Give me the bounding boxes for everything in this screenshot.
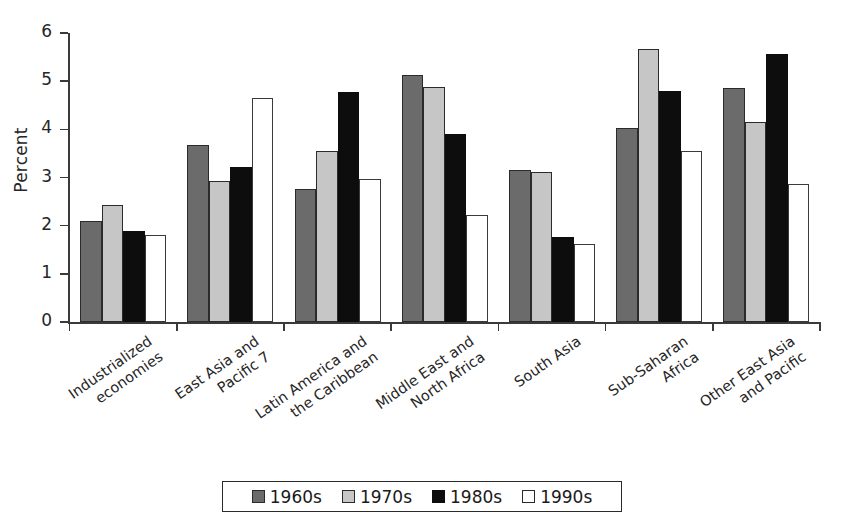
bar-1980s-group-0 — [123, 231, 145, 322]
legend-item-1990s[interactable]: 1990s — [522, 487, 592, 507]
y-axis-line — [68, 33, 70, 323]
chart-legend: 1960s1970s1980s1990s — [222, 481, 622, 512]
bar-1970s-group-6 — [745, 122, 767, 322]
y-tick-label-1: 1 — [12, 262, 52, 282]
bar-1970s-group-1 — [209, 181, 231, 322]
y-tick-4 — [60, 129, 68, 131]
legend-item-1970s[interactable]: 1970s — [342, 487, 412, 507]
bar-1960s-group-2 — [295, 189, 317, 322]
legend-label-1960s: 1960s — [270, 487, 322, 507]
x-tick-1 — [176, 322, 178, 331]
bar-1980s-group-2 — [338, 92, 360, 322]
x-tick-3 — [390, 322, 392, 331]
x-tick-2 — [283, 322, 285, 331]
bar-1990s-group-0 — [145, 235, 167, 322]
bar-1980s-group-5 — [659, 91, 681, 322]
x-tick-6 — [712, 322, 714, 331]
x-axis-line — [68, 322, 820, 324]
bar-1970s-group-2 — [316, 151, 338, 322]
y-tick-1 — [60, 273, 68, 275]
legend-swatch-icon-1980s — [432, 490, 445, 503]
y-tick-3 — [60, 177, 68, 179]
bar-1960s-group-3 — [402, 75, 424, 322]
bar-1970s-group-0 — [102, 205, 124, 322]
bar-1970s-group-5 — [638, 49, 660, 322]
legend-swatch-icon-1990s — [522, 490, 535, 503]
bar-1960s-group-5 — [616, 128, 638, 322]
bar-1970s-group-3 — [423, 87, 445, 322]
bar-1990s-group-6 — [788, 184, 810, 322]
bar-1980s-group-1 — [230, 167, 252, 322]
bar-1990s-group-2 — [359, 179, 381, 322]
bar-chart: Percent 0123456 IndustrializedeconomiesE… — [0, 0, 845, 527]
x-tick-5 — [605, 322, 607, 331]
bar-1990s-group-4 — [574, 244, 596, 322]
bar-1960s-group-1 — [187, 145, 209, 322]
legend-label-1990s: 1990s — [540, 487, 592, 507]
y-tick-label-0: 0 — [12, 310, 52, 330]
x-tick-4 — [498, 322, 500, 331]
bar-1990s-group-1 — [252, 98, 274, 322]
x-tick-0 — [69, 322, 71, 331]
legend-swatch-icon-1960s — [252, 490, 265, 503]
y-tick-label-6: 6 — [12, 21, 52, 41]
y-tick-6 — [60, 32, 68, 34]
legend-item-1980s[interactable]: 1980s — [432, 487, 502, 507]
bar-1990s-group-5 — [681, 151, 703, 322]
bar-1980s-group-6 — [766, 54, 788, 322]
y-tick-2 — [60, 225, 68, 227]
bar-1990s-group-3 — [466, 215, 488, 322]
x-tick-7 — [819, 322, 821, 331]
y-tick-label-5: 5 — [12, 69, 52, 89]
bar-1980s-group-3 — [445, 134, 467, 322]
y-tick-5 — [60, 80, 68, 82]
legend-label-1970s: 1970s — [360, 487, 412, 507]
legend-item-1960s[interactable]: 1960s — [252, 487, 322, 507]
bar-1960s-group-4 — [509, 170, 531, 322]
y-tick-label-3: 3 — [12, 166, 52, 186]
y-tick-label-2: 2 — [12, 214, 52, 234]
category-label-0: Industrializedeconomies — [0, 332, 167, 478]
legend-label-1980s: 1980s — [450, 487, 502, 507]
bar-1960s-group-0 — [80, 221, 102, 322]
legend-swatch-icon-1970s — [342, 490, 355, 503]
bar-1980s-group-4 — [552, 237, 574, 322]
bar-1960s-group-6 — [723, 88, 745, 322]
y-tick-label-4: 4 — [12, 117, 52, 137]
y-tick-0 — [60, 321, 68, 323]
bar-1970s-group-4 — [531, 172, 553, 322]
